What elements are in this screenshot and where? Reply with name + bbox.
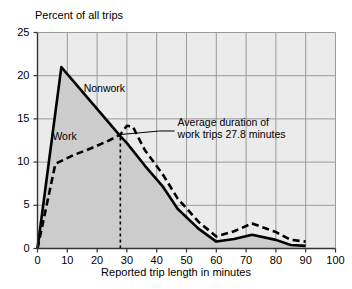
series-label-work: Work: [52, 130, 76, 142]
average-duration-annotation: Average duration of work trips 27.8 minu…: [178, 116, 286, 140]
annotation-line-1: Average duration of: [178, 116, 286, 128]
chart-plot-area: [0, 0, 352, 289]
series-label-nonwork: Nonwork: [84, 82, 125, 94]
annotation-line-2: work trips 27.8 minutes: [178, 128, 286, 140]
chart-container: Percent of all trips Reported trip lengt…: [0, 0, 352, 289]
